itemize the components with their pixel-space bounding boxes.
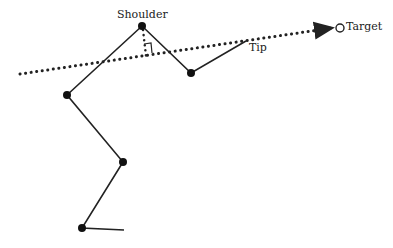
joint-elbow <box>187 69 195 77</box>
target-label: Target <box>346 20 382 33</box>
target-circle <box>336 24 344 32</box>
kinematic-chain-diagram: Shoulder Tip Target <box>0 0 393 248</box>
arm-chain <box>67 26 246 230</box>
perpendicular-dotted-line <box>143 30 146 56</box>
joint-middle <box>119 158 127 166</box>
shoulder-label: Shoulder <box>117 8 168 21</box>
tip-label: Tip <box>249 41 267 54</box>
diagram-svg <box>0 0 393 248</box>
joint-bottom <box>78 224 86 232</box>
dotted-line-to-target <box>20 28 332 74</box>
joint-shoulder <box>138 22 146 30</box>
joint-upper-left <box>63 91 71 99</box>
